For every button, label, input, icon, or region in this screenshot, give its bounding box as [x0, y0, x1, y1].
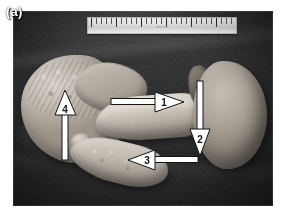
panel-label: (a) — [6, 4, 23, 19]
annotation-arrow-3-number: 3 — [144, 155, 150, 166]
annotation-arrow-2: 2 — [188, 81, 212, 157]
annotation-arrow-2-number: 2 — [197, 134, 203, 145]
annotation-arrow-1-number: 1 — [161, 97, 167, 108]
scale-bar-ruler: mm cm — [87, 17, 237, 34]
annotation-arrow-3: 3 — [127, 149, 199, 171]
figure-panel: mm cm 1 2 — [0, 0, 289, 219]
annotation-arrow-4-number: 4 — [62, 104, 68, 115]
specimen-photograph: mm cm 1 2 — [13, 11, 273, 206]
annotation-arrow-1: 1 — [111, 91, 185, 113]
ruler-printed-text: mm cm — [88, 25, 236, 30]
annotation-arrow-4: 4 — [53, 89, 77, 161]
